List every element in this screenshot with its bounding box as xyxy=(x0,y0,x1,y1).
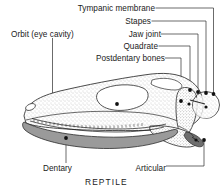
dot-jaw-joint xyxy=(196,90,200,94)
dot-quadrate xyxy=(188,88,192,92)
label-jaw-joint: Jaw joint xyxy=(106,30,161,39)
label-quadrate: Quadrate xyxy=(103,42,158,51)
dot-dentary xyxy=(64,136,68,140)
dot-tympanic-inner xyxy=(204,105,207,108)
label-articular: Articular xyxy=(116,164,166,173)
dot-articular xyxy=(202,138,206,142)
dot-articular-inner xyxy=(194,138,197,141)
label-dentary: Dentary xyxy=(43,164,72,173)
dot-stapes xyxy=(204,91,208,95)
dot-postdentary-bones xyxy=(179,99,183,103)
dot-orbit xyxy=(115,102,119,106)
figure-caption: REPTILE xyxy=(85,177,128,187)
reptile-skull-figure: Tympanic membrane Stapes Orbit (eye cavi… xyxy=(0,0,223,193)
skull-body xyxy=(23,73,220,148)
label-orbit: Orbit (eye cavity) xyxy=(11,30,74,39)
label-tympanic-membrane: Tympanic membrane xyxy=(57,4,155,13)
dot-quadrate-inner xyxy=(187,102,190,105)
dot-tympanic-membrane xyxy=(212,92,216,96)
label-stapes: Stapes xyxy=(96,17,151,26)
label-postdentary-bones: Postdentary bones xyxy=(73,54,165,63)
